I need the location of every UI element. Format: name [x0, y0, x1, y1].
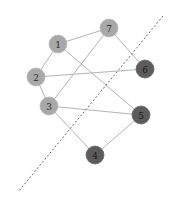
graph-diagram: 1234567: [0, 0, 175, 200]
edge-3-5: [49, 106, 141, 115]
node-5: 5: [132, 106, 150, 124]
node-1: 1: [49, 35, 67, 53]
edge-1-5: [58, 44, 141, 115]
node-label: 7: [106, 24, 112, 34]
node-label: 3: [46, 102, 52, 112]
node-6: 6: [136, 60, 154, 78]
node-label: 6: [142, 65, 148, 75]
node-label: 4: [92, 151, 98, 161]
node-7: 7: [100, 19, 118, 37]
nodes-layer: 1234567: [27, 19, 154, 164]
edge-2-6: [36, 69, 145, 77]
node-2: 2: [27, 68, 45, 86]
node-label: 2: [33, 73, 39, 83]
edge-3-4: [49, 106, 95, 155]
node-3: 3: [40, 97, 58, 115]
node-label: 1: [55, 40, 61, 50]
cut-line: [18, 16, 163, 192]
node-4: 4: [86, 146, 104, 164]
node-label: 5: [138, 111, 144, 121]
